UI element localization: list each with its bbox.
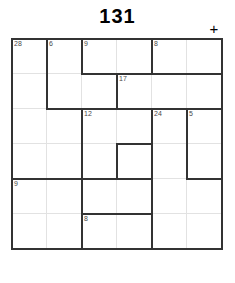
cage-clue-label: 28: [14, 40, 22, 48]
grid-cell[interactable]: [81, 178, 116, 213]
grid-cell[interactable]: [151, 143, 186, 178]
grid-cell[interactable]: [186, 143, 221, 178]
region-border-vertical: [116, 143, 118, 180]
grid-cell[interactable]: [186, 213, 221, 248]
page-title: 131: [0, 5, 235, 27]
puzzle-grid-container: 28698171224598: [11, 38, 222, 265]
grid-cell[interactable]: [116, 178, 151, 213]
grid-cell[interactable]: [151, 213, 186, 248]
region-border-vertical: [151, 108, 153, 145]
grid-cell[interactable]: [116, 108, 151, 143]
grid-cell[interactable]: [116, 143, 151, 178]
region-border-vertical: [81, 108, 83, 250]
cage-clue-label: 17: [119, 75, 127, 83]
grid-cell[interactable]: [11, 213, 46, 248]
region-border-vertical: [46, 38, 48, 110]
cage-clue-label: 8: [84, 215, 88, 223]
region-border-horizontal: [116, 178, 153, 180]
region-border-horizontal: [116, 73, 223, 75]
grid-cell[interactable]: [186, 38, 221, 73]
cage-clue-label: 5: [189, 110, 193, 118]
region-border-vertical: [151, 38, 153, 75]
grid-cell[interactable]: [46, 178, 81, 213]
puzzle-grid[interactable]: 28698171224598: [11, 38, 222, 265]
grid-cell[interactable]: [186, 178, 221, 213]
region-border-horizontal: [81, 73, 118, 75]
region-border-horizontal: [11, 248, 223, 250]
cage-clue-label: 9: [84, 40, 88, 48]
region-border-horizontal: [11, 38, 223, 40]
grid-cell[interactable]: [151, 178, 186, 213]
grid-cell[interactable]: [116, 38, 151, 73]
cage-clue-label: 12: [84, 110, 92, 118]
plus-icon[interactable]: +: [207, 22, 221, 36]
region-border-vertical: [221, 38, 223, 250]
region-border-vertical: [81, 38, 83, 75]
grid-cell[interactable]: [116, 213, 151, 248]
grid-cell[interactable]: [46, 108, 81, 143]
region-border-horizontal: [116, 143, 153, 145]
region-border-vertical: [151, 143, 153, 250]
cage-clue-label: 9: [14, 180, 18, 188]
grid-cell[interactable]: [186, 73, 221, 108]
cage-clue-label: 8: [154, 40, 158, 48]
grid-cell[interactable]: [81, 73, 116, 108]
grid-cell[interactable]: [11, 73, 46, 108]
grid-cell[interactable]: [151, 73, 186, 108]
grid-cell[interactable]: [46, 143, 81, 178]
region-border-vertical: [116, 73, 118, 110]
region-border-vertical: [11, 38, 13, 250]
cage-clue-label: 24: [154, 110, 162, 118]
region-border-horizontal: [116, 108, 223, 110]
grid-cell[interactable]: [11, 143, 46, 178]
grid-cell[interactable]: [46, 213, 81, 248]
cage-clue-label: 6: [49, 40, 53, 48]
region-border-horizontal: [81, 213, 153, 215]
grid-cell[interactable]: [11, 108, 46, 143]
region-border-horizontal: [186, 178, 223, 180]
region-border-vertical: [186, 108, 188, 180]
grid-cell[interactable]: [46, 73, 81, 108]
grid-cell[interactable]: [81, 143, 116, 178]
region-border-horizontal: [11, 178, 118, 180]
